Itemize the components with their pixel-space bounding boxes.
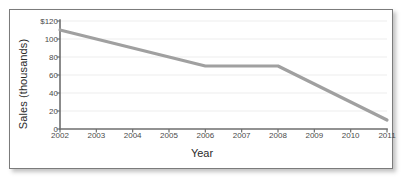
plot-canvas [10,10,394,170]
axis-tick-marks [57,21,388,133]
line-chart: Sales (thousands) Year 020406080100$120 … [10,10,394,170]
chart-frame: Sales (thousands) Year 020406080100$120 … [9,9,393,169]
